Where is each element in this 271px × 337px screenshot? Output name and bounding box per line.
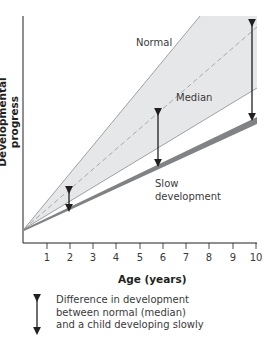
x-tick-label: 2	[62, 252, 78, 263]
legend-line-2: between normal (median)	[56, 307, 204, 320]
x-ticks	[47, 243, 256, 249]
label-slow-1: Slow	[155, 178, 178, 189]
chart-canvas	[0, 0, 271, 337]
legend: Difference in development between normal…	[56, 294, 204, 332]
label-median: Median	[176, 92, 212, 103]
y-axis-label: Developmental progress	[0, 62, 20, 182]
x-tick-label: 3	[85, 252, 101, 263]
label-slow-2: development	[155, 191, 221, 202]
x-tick-label: 4	[108, 252, 124, 263]
legend-line-1: Difference in development	[56, 294, 204, 307]
label-normal: Normal	[136, 37, 172, 48]
x-tick-label: 10	[248, 252, 264, 263]
x-tick-label: 1	[39, 252, 55, 263]
x-tick-label: 6	[155, 252, 171, 263]
x-tick-label: 7	[178, 252, 194, 263]
x-axis-label: Age (years)	[118, 273, 187, 285]
legend-line-3: and a child developing slowly	[56, 319, 204, 332]
x-tick-label: 5	[132, 252, 148, 263]
x-tick-label: 9	[225, 252, 241, 263]
x-tick-label: 8	[201, 252, 217, 263]
